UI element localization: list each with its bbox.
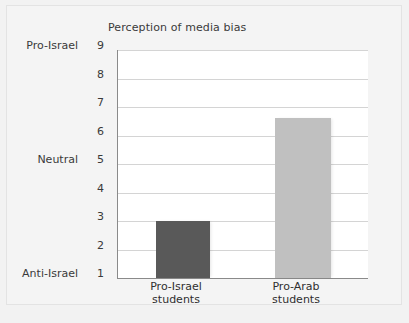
y-axis-tick-label-7: 7 [86, 97, 104, 108]
y-axis-tick-label-9: 9 [86, 40, 104, 51]
y-axis-category-label-pro-israel: Pro-Israel [2, 40, 78, 51]
x-axis-label-line: Pro-Arab [246, 280, 346, 293]
y-axis-tick-label-6: 6 [86, 126, 104, 137]
gridline-9 [118, 50, 368, 51]
plot-area [117, 50, 368, 279]
gridline-8 [118, 79, 368, 80]
y-axis-tick-label-3: 3 [86, 211, 104, 222]
x-axis-category-label-pro-arab-students: Pro-Arabstudents [246, 280, 346, 306]
y-axis-tick-label-4: 4 [86, 183, 104, 194]
gridline-7 [118, 107, 368, 108]
y-axis-tick-label-1: 1 [86, 268, 104, 279]
y-axis-tick-label-8: 8 [86, 69, 104, 80]
y-axis-category-label-neutral: Neutral [2, 154, 78, 165]
x-axis-label-line: students [126, 293, 226, 306]
x-axis-label-line: Pro-Israel [126, 280, 226, 293]
chart-figure: Perception of media bias 123456789Pro-Is… [0, 0, 409, 323]
y-axis-tick-label-2: 2 [86, 240, 104, 251]
x-axis-label-line: students [246, 293, 346, 306]
bar-pro-arab-students[interactable] [275, 118, 331, 278]
chart-title: Perception of media bias [108, 21, 246, 34]
x-axis-category-label-pro-israel-students: Pro-Israelstudents [126, 280, 226, 306]
chart-frame: Perception of media bias 123456789Pro-Is… [6, 5, 402, 305]
y-axis-tick-label-5: 5 [86, 154, 104, 165]
bar-pro-israel-students[interactable] [156, 221, 210, 278]
y-axis-category-label-anti-israel: Anti-Israel [2, 268, 78, 279]
